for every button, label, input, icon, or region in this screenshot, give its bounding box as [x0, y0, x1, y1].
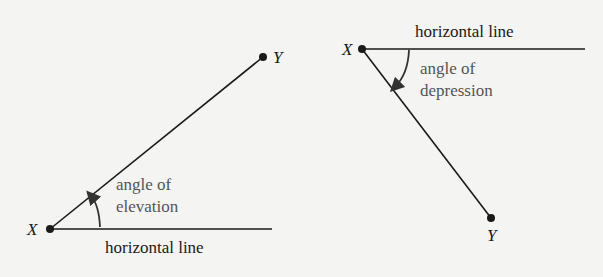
point-y: [487, 214, 495, 222]
elevation-diagram: X Y angle of elevation horizontal line: [26, 48, 284, 257]
point-y: [259, 53, 267, 61]
depression-arc-arrow-icon: [395, 50, 409, 87]
label-y: Y: [273, 48, 284, 67]
angle-label-line1: angle of: [420, 59, 476, 78]
point-x: [358, 45, 366, 53]
elevation-arc-arrow-icon: [91, 196, 100, 227]
label-y: Y: [487, 226, 498, 245]
diagram-canvas: X Y angle of elevation horizontal line X…: [0, 0, 603, 277]
horizontal-line-label: horizontal line: [105, 238, 204, 257]
angle-label-line1: angle of: [116, 175, 172, 194]
horizontal-line-label: horizontal line: [415, 22, 514, 41]
label-x: X: [341, 40, 353, 59]
point-x: [46, 225, 54, 233]
angle-label-line2: elevation: [116, 197, 179, 216]
angle-label-line2: depression: [420, 81, 493, 100]
label-x: X: [26, 220, 38, 239]
depression-diagram: X Y angle of depression horizontal line: [341, 22, 585, 245]
